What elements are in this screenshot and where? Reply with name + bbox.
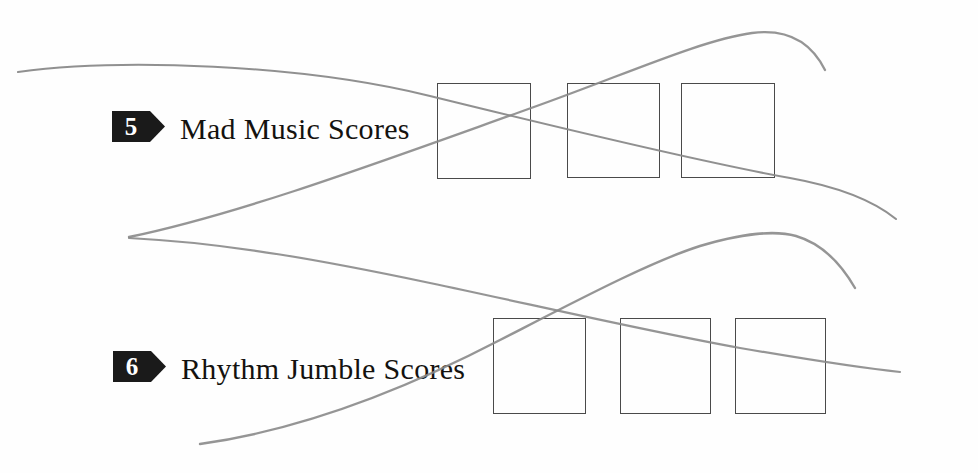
scan-artifact-curves: [0, 0, 978, 473]
section-number-label: 6: [113, 351, 151, 382]
section-number-badge-5: 5: [112, 111, 165, 142]
answer-box[interactable]: [620, 318, 711, 414]
answer-box[interactable]: [681, 83, 775, 178]
answer-box[interactable]: [567, 83, 660, 178]
worksheet-page: 5 Mad Music Scores 6 Rhythm Jumble Score…: [0, 0, 978, 473]
section-number-label: 5: [112, 111, 150, 142]
section-title-rhythm-jumble-scores: Rhythm Jumble Scores: [181, 352, 465, 386]
answer-box[interactable]: [437, 83, 531, 179]
answer-box[interactable]: [735, 318, 826, 414]
answer-box[interactable]: [493, 318, 586, 414]
section-title-mad-music-scores: Mad Music Scores: [180, 112, 410, 146]
section-number-badge-6: 6: [113, 351, 166, 382]
